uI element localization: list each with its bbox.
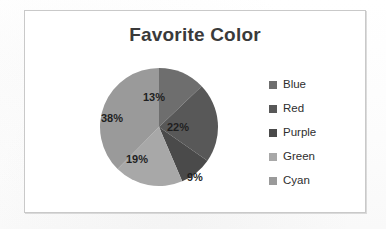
legend-label: Red (283, 103, 304, 115)
slice-label-red: 22% (167, 121, 189, 133)
legend-label: Blue (283, 79, 306, 91)
legend-item-red[interactable]: Red (269, 97, 347, 121)
legend-swatch-icon (269, 129, 277, 137)
legend-swatch-icon (269, 81, 277, 89)
slice-label-purple: 9% (187, 171, 203, 183)
legend-item-blue[interactable]: Blue (269, 73, 347, 97)
pie-svg (99, 67, 219, 187)
pie-chart: 13% 22% 9% 19% 38% (99, 67, 219, 187)
legend-swatch-icon (269, 153, 277, 161)
chart-frame: Favorite Color 13% 22% 9% 19% 38% Blue R… (24, 10, 366, 213)
legend-swatch-icon (269, 105, 277, 113)
legend-item-cyan[interactable]: Cyan (269, 169, 347, 193)
legend-swatch-icon (269, 177, 277, 185)
legend-item-green[interactable]: Green (269, 145, 347, 169)
slice-label-green: 19% (126, 153, 148, 165)
legend-label: Purple (283, 127, 316, 139)
chart-title: Favorite Color (25, 24, 365, 46)
slice-label-cyan: 38% (101, 112, 123, 124)
chart-legend: Blue Red Purple Green Cyan (269, 73, 347, 193)
legend-item-purple[interactable]: Purple (269, 121, 347, 145)
legend-label: Cyan (283, 175, 310, 187)
pie-slice-group (100, 68, 218, 186)
slice-label-blue: 13% (143, 91, 165, 103)
legend-label: Green (283, 151, 315, 163)
